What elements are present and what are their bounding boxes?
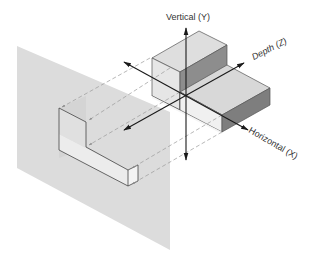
projection-plane (17, 46, 170, 250)
vertical-axis-label: Vertical (Y) (166, 12, 210, 22)
